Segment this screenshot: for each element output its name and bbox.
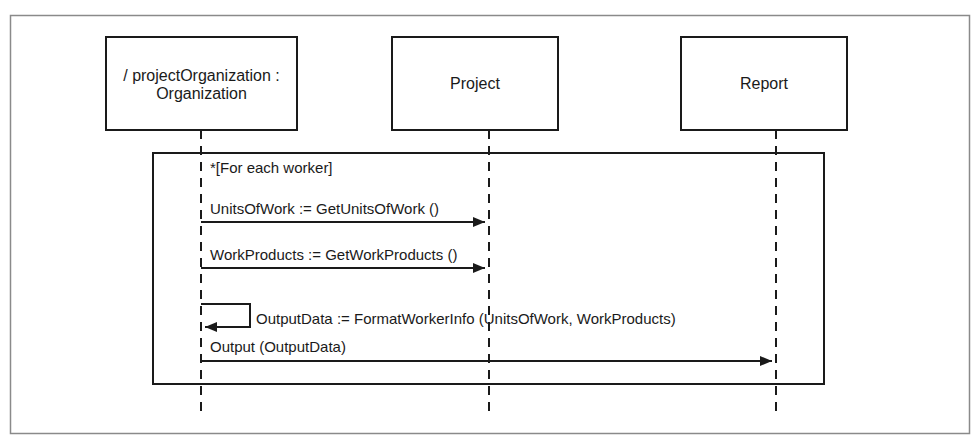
lifeline-org: / projectOrganization : Organization [106, 37, 297, 412]
message-label: Output (OutputData) [210, 338, 346, 355]
message-label: OutputData := FormatWorkerInfo (UnitsOfW… [256, 310, 676, 327]
message-label: WorkProducts := GetWorkProducts () [210, 246, 457, 263]
self-call-arrow [201, 304, 250, 327]
message-label: UnitsOfWork := GetUnitsOfWork () [210, 200, 439, 217]
lifeline-project: Project [392, 37, 558, 412]
lifeline-project-label: Project [450, 75, 500, 92]
lifeline-org-label-line1: / projectOrganization : [123, 67, 280, 84]
message-get-units-of-work: UnitsOfWork := GetUnitsOfWork () [201, 200, 485, 222]
lifeline-org-label-line2: Organization [156, 85, 247, 102]
sequence-diagram: / projectOrganization : Organization Pro… [0, 0, 980, 444]
message-get-work-products: WorkProducts := GetWorkProducts () [201, 246, 485, 268]
lifeline-report: Report [681, 37, 847, 412]
loop-guard: *[For each worker] [210, 159, 333, 176]
lifeline-report-label: Report [740, 75, 789, 92]
message-format-worker-info: OutputData := FormatWorkerInfo (UnitsOfW… [201, 304, 676, 327]
message-output: Output (OutputData) [201, 338, 772, 361]
